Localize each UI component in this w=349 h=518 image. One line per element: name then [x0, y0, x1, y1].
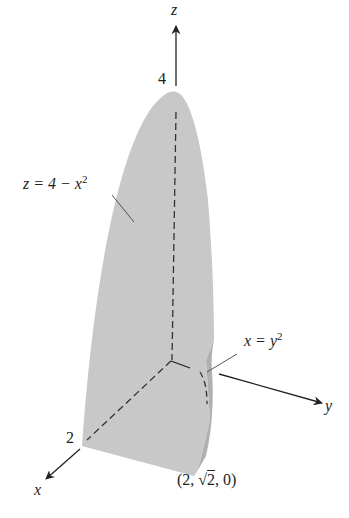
x-tick-label: 2 — [66, 430, 74, 446]
cylinder-equation-label: z = 4 − x2 — [23, 176, 87, 192]
wall-equation-exponent: 2 — [277, 330, 283, 342]
cylinder-equation-exponent: 2 — [82, 173, 88, 185]
sqrt-symbol: √ — [198, 471, 207, 488]
wall-equation-label: x = y2 — [244, 333, 283, 349]
point-suffix: , 0) — [215, 471, 236, 488]
solid-front-face — [82, 92, 214, 476]
x-axis — [46, 449, 80, 479]
cylinder-equation-lhs: z = 4 − x — [23, 175, 82, 192]
point-sqrt-arg: 2 — [207, 471, 215, 488]
wall-equation-lhs: x = y — [244, 332, 277, 349]
solid-region-diagram: z 4 z = 4 − x2 x = y2 y 2 x (2, √2, 0) — [0, 0, 349, 518]
point-prefix: (2, — [177, 471, 198, 488]
x-axis-label: x — [34, 482, 41, 498]
y-axis-label: y — [325, 398, 332, 414]
corner-point-label: (2, √2, 0) — [177, 472, 236, 488]
z-tick-label: 4 — [158, 71, 166, 87]
y-axis — [219, 374, 322, 403]
diagram-canvas — [0, 0, 349, 518]
z-axis-label: z — [171, 2, 177, 18]
